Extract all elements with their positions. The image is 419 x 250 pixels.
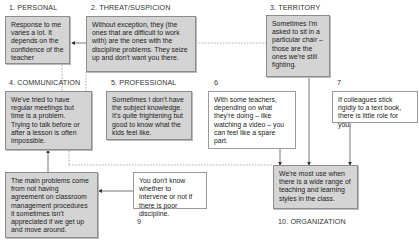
category-label-professional: 5. PROFESSIONAL <box>111 78 176 87</box>
box-7: If colleagues stick rigidly to a text bo… <box>332 91 418 123</box>
box-threat: Without exception, they (the ones that a… <box>86 16 196 72</box>
box-9: You don't know whether to intervene or n… <box>133 172 207 209</box>
box-main-problems: The main problems come from not having a… <box>5 172 98 238</box>
box-6: With some teachers, depending on what th… <box>208 91 296 149</box>
category-label-7: 7 <box>337 78 341 87</box>
box-organization: We're most use when there is a wide rang… <box>273 165 358 209</box>
category-label-9: 9 <box>137 217 141 226</box>
box-professional: Sometimes I don't have the subject knowl… <box>106 91 192 140</box>
category-label-threat: 2. THREAT/SUSPICION <box>91 3 171 12</box>
category-label-6: 6 <box>214 78 218 87</box>
box-communication: We've tried to have regular meetings but… <box>5 91 92 150</box>
box-territory: Sometimes I'm asked to sit in a particul… <box>266 15 330 77</box>
category-label-communication: 4. COMMUNICATION <box>9 78 80 87</box>
category-label-territory: 3. TERRITORY <box>270 3 320 12</box>
box-personal: Response to me varies a lot. It depends … <box>5 16 70 64</box>
category-label-organization: 10. ORGANIZATION <box>278 217 346 226</box>
category-label-personal: 1. PERSONAL <box>9 3 57 12</box>
